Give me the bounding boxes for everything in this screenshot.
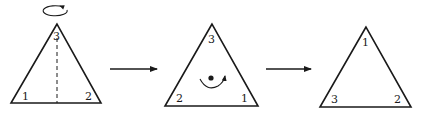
triangle-after-flip: 3 2 1 (165, 24, 258, 106)
triangle-after-rotation: 1 3 2 (320, 27, 411, 107)
vertex-label-bottom-left: 2 (176, 92, 183, 105)
triangle-initial: 3 1 2 (11, 4, 101, 103)
symmetry-diagram: 3 1 2 3 2 1 1 3 2 (0, 0, 421, 116)
vertex-label-bottom-right: 1 (241, 92, 248, 105)
vertex-label-top: 1 (362, 36, 369, 49)
vertex-label-bottom-left: 1 (22, 90, 29, 103)
vertex-label-top: 3 (208, 33, 215, 46)
vertex-label-bottom-right: 2 (85, 90, 92, 103)
center-dot-icon (208, 75, 213, 80)
vertex-label-bottom-right: 2 (394, 93, 401, 106)
vertex-label-top: 3 (53, 30, 60, 43)
flip-rotation-icon (43, 4, 67, 16)
vertex-label-bottom-left: 3 (331, 93, 338, 106)
